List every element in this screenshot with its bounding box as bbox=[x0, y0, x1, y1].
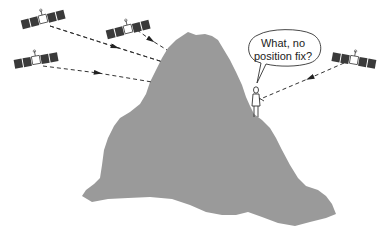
satellite-4 bbox=[331, 46, 377, 69]
speech-line-2: position fix? bbox=[250, 50, 316, 63]
satellite-1 bbox=[19, 4, 65, 29]
signal-path-3 bbox=[43, 66, 152, 82]
satellite-2 bbox=[104, 14, 150, 39]
speech-line-1: What, no bbox=[250, 37, 316, 50]
signal-path-2 bbox=[137, 30, 167, 50]
signal-path-4 bbox=[258, 63, 344, 100]
person-icon bbox=[252, 87, 264, 117]
speech-bubble-text: What, no position fix? bbox=[250, 37, 316, 63]
gps-obstruction-diagram bbox=[0, 0, 391, 230]
satellite-3 bbox=[13, 46, 59, 69]
